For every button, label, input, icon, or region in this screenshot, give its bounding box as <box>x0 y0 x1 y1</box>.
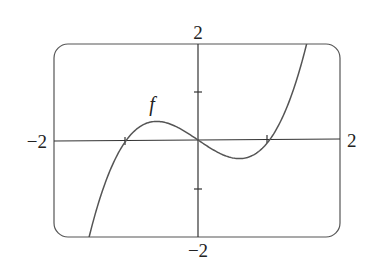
y-min-label: −2 <box>188 240 208 261</box>
x-max-label: 2 <box>347 130 357 151</box>
function-graph: 2 −2 −2 2 f <box>0 0 373 279</box>
y-max-label: 2 <box>193 22 203 43</box>
function-label: f <box>149 93 157 116</box>
x-min-label: −2 <box>27 131 47 152</box>
curve-f <box>80 0 328 277</box>
